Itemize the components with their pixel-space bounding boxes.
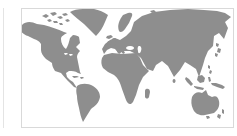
africa-landmass: [101, 53, 149, 104]
greenland-landmass: [70, 9, 108, 36]
world-map-card[interactable]: [21, 8, 234, 128]
sulawesi-landmass: [208, 77, 211, 82]
caribbean-islands-landmass: [72, 76, 84, 79]
philippines-landmass: [208, 65, 212, 74]
iceland-landmass: [106, 35, 113, 39]
south-america-landmass: [76, 84, 100, 122]
world-map: [22, 9, 233, 127]
new-zealand-landmass: [217, 109, 224, 119]
adjacent-card-edge: [3, 8, 4, 128]
arctic-islands-landmass: [42, 12, 70, 25]
tasmania-landmass: [206, 116, 210, 119]
new-guinea-landmass: [211, 83, 225, 89]
black-sea-water: [126, 46, 134, 50]
australia-landmass: [191, 90, 219, 115]
sri-lanka-landmass: [173, 79, 176, 83]
java-landmass: [194, 86, 204, 90]
screenshot-canvas: [0, 0, 237, 136]
japan-landmass: [215, 43, 221, 57]
madagascar-landmass: [145, 89, 150, 99]
borneo-landmass: [197, 75, 205, 83]
sumatra-landmass: [185, 77, 193, 86]
scandinavia-landmass: [118, 13, 132, 32]
